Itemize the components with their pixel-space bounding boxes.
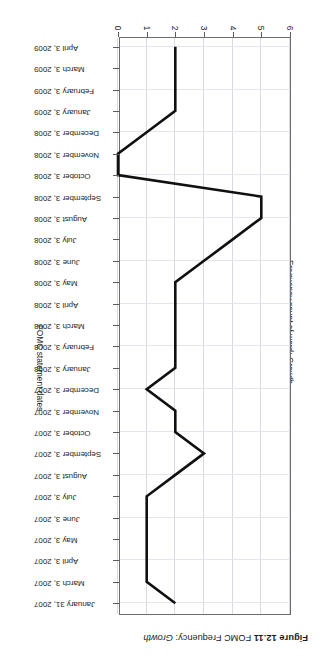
category-tick-label: August 3, 2007 [34,471,112,480]
category-tick [113,111,119,112]
category-tick-label: April 3, 2008 [34,300,112,309]
category-tick [113,389,119,390]
category-tick [113,603,119,604]
figure-title-keyword: Growth [143,633,173,643]
category-tick-label: September 3, 2008 [34,193,112,202]
figure-title-plain: FOMC Frequency: [176,633,252,643]
category-tick [113,218,119,219]
category-tick-label: February 3, 2009 [34,86,112,95]
category-tick [113,261,119,262]
category-tick-label: May 3, 2008 [34,279,112,288]
category-tick-label: October 3, 2007 [34,429,112,438]
category-tick-label: August 3, 2008 [34,214,112,223]
category-tick [113,132,119,133]
category-tick [113,68,119,69]
category-tick [113,154,119,155]
category-tick-label: November 3, 2007 [34,407,112,416]
category-axis-ticks [112,37,119,615]
category-tick-label: May 3, 2007 [34,536,112,545]
plot-area [119,37,291,615]
category-tick-label: March 3, 2009 [34,65,112,74]
category-tick [113,90,119,91]
category-tick-label: April 3, 2009 [34,43,112,52]
value-tick-label: 6 [285,16,295,40]
category-axis-labels: January 31, 2007March 3, 2007April 3, 20… [34,37,112,615]
category-tick [113,518,119,519]
category-tick-label: July 3, 2008 [34,236,112,245]
category-tick-label: December 3, 2008 [34,129,112,138]
line-chart: Frequency count of word: Growth 0123456 … [0,8,322,623]
category-tick-label: April 3, 2007 [34,557,112,566]
category-axis-title: FOMC statement dates [35,283,45,453]
category-tick [113,368,119,369]
category-tick [113,197,119,198]
category-tick [113,582,119,583]
value-tick-label: 5 [256,16,266,40]
category-tick [113,539,119,540]
category-tick-label: October 3, 2008 [34,172,112,181]
category-tick [113,346,119,347]
value-axis: 0123456 [119,15,291,37]
category-tick [113,282,119,283]
category-tick [113,432,119,433]
category-tick-label: January 3, 2008 [34,364,112,373]
category-tick [113,496,119,497]
category-tick-label: November 3, 2008 [34,150,112,159]
category-tick-label: February 3, 2008 [34,343,112,352]
category-tick-label: June 3, 2007 [34,514,112,523]
category-tick-label: June 3, 2008 [34,257,112,266]
value-tick-label: 4 [228,16,238,40]
category-tick [113,47,119,48]
value-tick-label: 1 [142,16,152,40]
category-tick-label: September 3, 2007 [34,450,112,459]
category-tick-label: January 31, 2007 [34,600,112,609]
category-tick [113,304,119,305]
category-tick-label: December 3, 2007 [34,386,112,395]
figure-page: Figure 12.11 FOMC Frequency: Growth Freq… [0,0,322,659]
value-tick-label: 2 [170,16,180,40]
category-tick [113,325,119,326]
category-tick [113,175,119,176]
category-tick [113,239,119,240]
category-tick-label: March 3, 2008 [34,322,112,331]
category-tick-label: March 3, 2007 [34,578,112,587]
value-tick-label: 3 [199,16,209,40]
category-tick [113,560,119,561]
category-tick-label: January 3, 2009 [34,107,112,116]
figure-caption: Figure 12.11 FOMC Frequency: Growth [68,633,308,643]
category-tick [113,475,119,476]
category-tick-label: July 3, 2007 [34,493,112,502]
category-tick [113,411,119,412]
data-line [118,36,290,614]
figure-number: Figure 12.11 [254,633,308,643]
rotated-figure-container: Figure 12.11 FOMC Frequency: Growth Freq… [0,0,322,659]
category-tick [113,453,119,454]
